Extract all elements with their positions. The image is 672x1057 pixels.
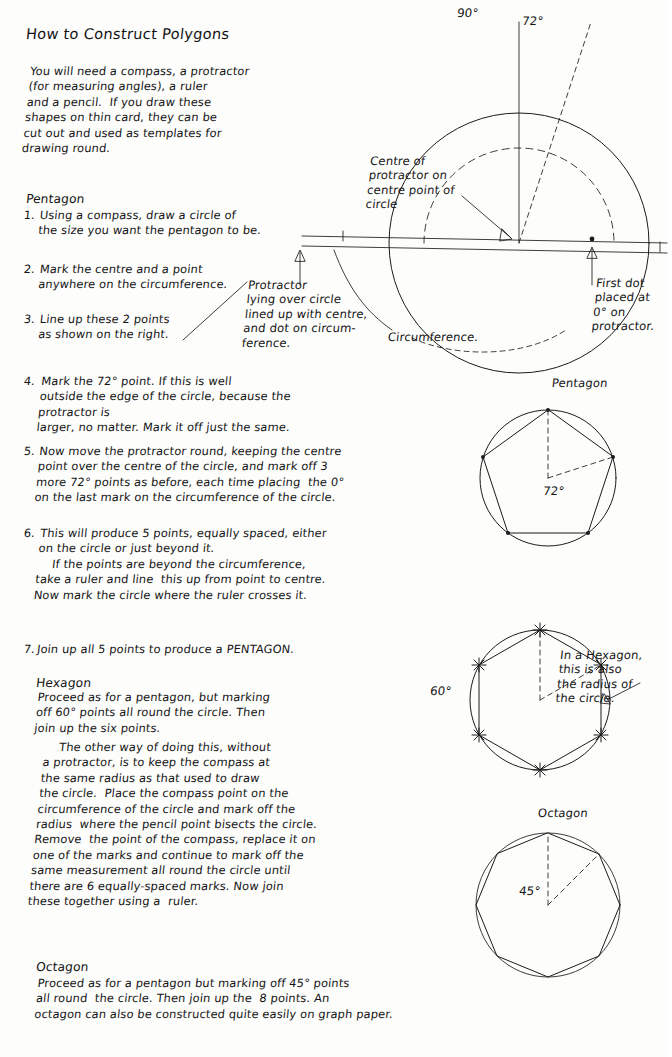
octagon-caption: Octagon	[537, 806, 589, 820]
octagon-angle-label: 45°	[518, 884, 541, 899]
